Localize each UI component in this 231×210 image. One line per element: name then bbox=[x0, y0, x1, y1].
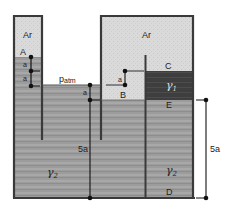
left-tube-liquid bbox=[15, 57, 41, 87]
point-c-label: C bbox=[165, 61, 172, 71]
patm-label: patm bbox=[59, 74, 76, 84]
point-a-label: A bbox=[20, 47, 26, 57]
point-e-label: E bbox=[166, 100, 172, 110]
right-5a-dimension bbox=[196, 98, 208, 201]
right-a-label: a bbox=[118, 76, 122, 83]
air-left-label: Ar bbox=[23, 30, 32, 40]
patm-a-label: a bbox=[83, 89, 87, 96]
manometer-diagram: Ar Ar A a a patm a a B C E D γ1 γ2 γ2 5a… bbox=[0, 0, 231, 210]
left-a2-label: a bbox=[23, 75, 27, 82]
point-d-label: D bbox=[166, 187, 173, 197]
left-a1-label: a bbox=[23, 61, 27, 68]
center-5a-label: 5a bbox=[78, 144, 88, 154]
air-right-label: Ar bbox=[142, 30, 151, 40]
right-5a-label: 5a bbox=[210, 144, 220, 154]
point-b-label: B bbox=[120, 90, 126, 100]
